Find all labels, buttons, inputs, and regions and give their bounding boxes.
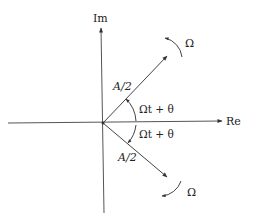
upper-magnitude-label: A/2 (112, 80, 132, 93)
upper-rotation-label: Ω (185, 37, 194, 50)
lower-angle-label: Ωt + θ (139, 128, 174, 140)
upper-rotation-arrow-icon (165, 38, 182, 57)
imaginary-axis-label: Im (93, 12, 108, 25)
lower-rotation-label: Ω (187, 186, 196, 199)
upper-angle-label: Ωt + θ (139, 103, 174, 115)
phasor-diagram: Im Re A/2 A/2 Ωt + θ Ωt + θ Ω Ω (0, 0, 255, 220)
origin-point (102, 122, 105, 125)
upper-angle-arc-icon (126, 99, 136, 121)
lower-magnitude-label: A/2 (117, 151, 137, 164)
lower-angle-arc-icon (128, 125, 136, 143)
imaginary-axis (101, 28, 104, 213)
real-axis-label: Re (226, 115, 241, 128)
real-axis (8, 121, 222, 123)
lower-rotation-arrow-icon (162, 181, 181, 196)
